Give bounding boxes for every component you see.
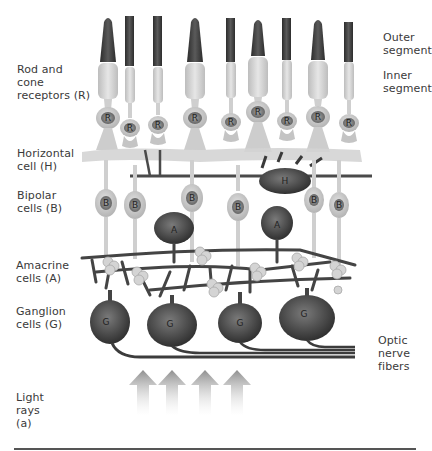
label-bipolar-cells: Bipolar cells (B): [17, 189, 62, 215]
ganglion-cell: [90, 300, 130, 344]
receptor-letter: R: [228, 117, 234, 127]
receptor-letter: R: [284, 116, 290, 126]
amacrine-letter: A: [274, 220, 281, 230]
bipolar-letter: B: [235, 202, 241, 212]
label-optic-nerve-fibers: Optic nerve fibers: [378, 334, 410, 373]
label-ganglion-cells: Ganglion cells (G): [16, 305, 66, 331]
bottom-rule: [14, 448, 416, 450]
label-inner-segment: Inner segment: [383, 69, 432, 95]
light-rays: [129, 370, 251, 416]
bipolar-letter: B: [189, 193, 195, 203]
label-outer-segment: Outer segment: [383, 31, 432, 57]
arrow-up-icon: [158, 370, 186, 416]
receptor-letter: R: [192, 113, 198, 123]
label-light-rays: Light rays (a): [16, 391, 44, 430]
ganglion-letter: G: [301, 309, 308, 319]
receptor-letter: R: [255, 107, 261, 117]
receptor-letter: R: [105, 113, 111, 123]
horizontal-cell-letter: H: [282, 176, 289, 186]
label-amacrine-cells: Amacrine cells (A): [16, 259, 69, 285]
ganglion-letter: G: [167, 319, 174, 329]
bipolar-letter: B: [311, 195, 317, 205]
arrow-up-icon: [129, 370, 157, 416]
amacrine-layer: A A: [154, 206, 293, 244]
receptor-cone: [306, 20, 330, 152]
receptor-cone: [244, 20, 272, 152]
receptor-letter: R: [127, 123, 133, 133]
receptor-layer: [96, 16, 359, 152]
amacrine-letter: A: [171, 225, 178, 235]
receptor-cone: [96, 18, 120, 150]
ganglion-letter: G: [103, 317, 110, 327]
arrow-up-icon: [223, 370, 251, 416]
ganglion-letter: G: [237, 318, 244, 328]
receptor-letter: R: [155, 120, 161, 130]
outer-plexiform-layer: [82, 148, 372, 176]
bipolar-letter: B: [103, 198, 109, 208]
label-receptors: Rod and cone receptors (R): [17, 63, 90, 102]
receptor-letter: R: [346, 118, 352, 128]
optic-nerve-fibers: [112, 340, 355, 357]
receptor-letter: R: [315, 112, 321, 122]
bipolar-letter: B: [336, 200, 342, 210]
arrow-up-icon: [191, 370, 219, 416]
bipolar-letter: B: [132, 200, 138, 210]
receptor-cone: [183, 18, 207, 150]
bipolar-cell: [95, 160, 117, 257]
bipolar-cell: [124, 165, 146, 259]
label-horizontal-cell: Horizontal cell (H): [17, 147, 74, 173]
